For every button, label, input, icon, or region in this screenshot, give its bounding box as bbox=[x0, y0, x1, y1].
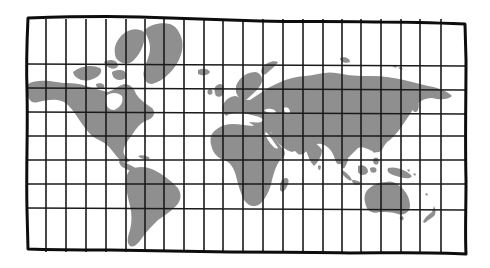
greenland bbox=[143, 23, 182, 84]
caribbean-islands bbox=[138, 155, 150, 159]
map-canvas bbox=[0, 0, 490, 268]
indian-subcontinent bbox=[306, 140, 322, 166]
british-isles bbox=[207, 84, 224, 97]
baffin-island bbox=[115, 29, 145, 63]
borneo bbox=[358, 165, 368, 175]
north-america bbox=[28, 81, 154, 163]
parallel-line bbox=[27, 64, 465, 66]
severnaya-zemlya bbox=[340, 57, 403, 70]
new-zealand bbox=[423, 206, 435, 223]
sulawesi bbox=[370, 167, 377, 173]
pacific-islands bbox=[407, 169, 428, 196]
sri-lanka bbox=[318, 165, 321, 170]
land-layer bbox=[28, 23, 452, 246]
world-map bbox=[0, 0, 490, 268]
south-america bbox=[126, 167, 181, 247]
sumatra bbox=[342, 170, 352, 181]
graticule bbox=[27, 19, 465, 252]
new-guinea bbox=[387, 167, 412, 178]
